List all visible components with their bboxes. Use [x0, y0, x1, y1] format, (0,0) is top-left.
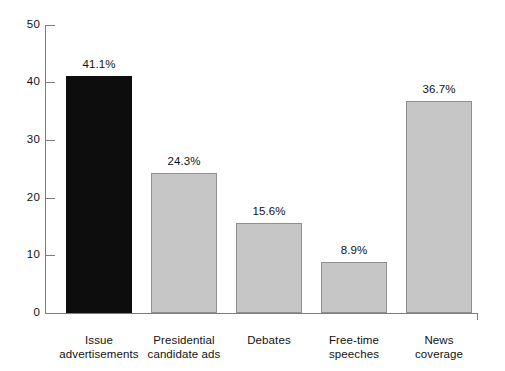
bar-value-presidential-candidate-ads: 24.3% — [151, 155, 217, 167]
y-axis-tick-30 — [46, 140, 55, 141]
y-axis-tick-50 — [46, 25, 55, 26]
x-axis-line — [45, 313, 477, 314]
bar-debates — [236, 223, 302, 313]
y-axis-label-50: 50 — [6, 18, 40, 30]
bar-presidential-candidate-ads — [151, 173, 217, 313]
category-label-news-coverage: News coverage — [389, 333, 489, 361]
category-label-line-2: coverage — [389, 347, 489, 361]
bar-free-time-speeches — [321, 262, 387, 313]
y-axis-label-20: 20 — [6, 191, 40, 203]
bar-issue-advertisements — [66, 76, 132, 313]
plot-area: 50 40 30 20 10 0 41.1% 24.3% 15.6% 8.9% … — [0, 0, 505, 371]
bar-chart: 50 40 30 20 10 0 41.1% 24.3% 15.6% 8.9% … — [0, 0, 505, 371]
y-axis-label-10: 10 — [6, 248, 40, 260]
y-axis-line — [45, 25, 46, 314]
x-axis-end-tick — [477, 313, 478, 320]
y-axis-label-0: 0 — [6, 306, 40, 318]
bar-news-coverage — [406, 101, 472, 313]
bar-value-debates: 15.6% — [236, 205, 302, 217]
y-axis-tick-20 — [46, 198, 55, 199]
category-label-line-1: News — [389, 333, 489, 347]
y-axis-label-40: 40 — [6, 75, 40, 87]
bar-value-free-time-speeches: 8.9% — [321, 244, 387, 256]
y-axis-label-30: 30 — [6, 133, 40, 145]
bar-value-news-coverage: 36.7% — [406, 83, 472, 95]
y-axis-tick-10 — [46, 255, 55, 256]
bar-value-issue-advertisements: 41.1% — [66, 58, 132, 70]
y-axis-tick-40 — [46, 82, 55, 83]
category-label-line-2: candidate ads — [134, 347, 234, 361]
